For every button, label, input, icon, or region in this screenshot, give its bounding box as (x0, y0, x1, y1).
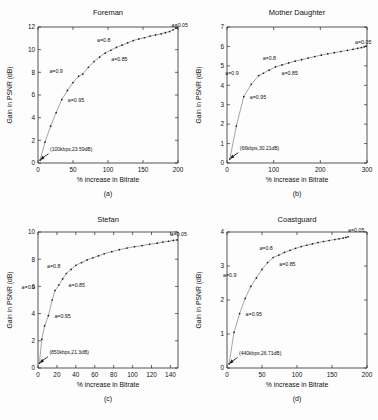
x-tick-label: 200 (362, 371, 373, 378)
data-point-marker (357, 48, 359, 50)
data-point-marker (338, 238, 340, 240)
data-curve (230, 46, 366, 159)
alpha-annotation-label: a=0.85 (282, 70, 298, 76)
chart-svg-coastguard: Coastguard05010015020001234(440kbps,26.7… (189, 210, 378, 420)
x-tick-label: 20 (53, 371, 61, 378)
data-point-marker (104, 52, 106, 54)
data-point-marker (103, 253, 105, 255)
data-point-marker (340, 51, 342, 53)
data-point-marker (50, 125, 52, 127)
data-point-marker (168, 240, 170, 242)
y-tick-label: 2 (220, 296, 224, 303)
data-point-marker (111, 251, 113, 253)
origin-annotation-label: (850kbps,21.3dB) (49, 349, 89, 355)
data-point-marker (156, 242, 158, 244)
data-point-marker (267, 262, 269, 264)
data-point-marker (110, 49, 112, 51)
x-tick-label: 150 (327, 371, 338, 378)
y-tick-label: 8 (31, 69, 35, 76)
data-point-marker (281, 64, 283, 66)
alpha-annotation-label: a=0.8 (47, 263, 60, 269)
y-tick-label: 6 (220, 43, 224, 50)
data-point-marker (155, 34, 157, 36)
chart-svg-foreman: Foreman050100150200024681012(100kbps,23.… (0, 0, 189, 210)
data-point-marker (307, 57, 309, 59)
data-curve (39, 240, 177, 363)
data-point-marker (138, 38, 140, 40)
origin-annotation-label: (440kbps,26.71dB) (239, 350, 282, 356)
x-tick-label: 100 (103, 166, 114, 173)
data-point-marker (317, 242, 319, 244)
data-point-marker (250, 286, 252, 288)
alpha-annotation-label: a=0.8 (259, 245, 272, 251)
data-point-marker (333, 52, 335, 54)
data-point-marker (127, 42, 129, 44)
data-point-marker (347, 49, 349, 51)
data-point-marker (134, 246, 136, 248)
data-point-marker (48, 315, 50, 317)
data-point-marker (98, 255, 100, 257)
panel-subcaption: (d) (293, 395, 302, 403)
chart-panel-mother-daughter: Mother Daughter010020030001234567(66kbps… (189, 0, 378, 210)
data-point-marker (55, 112, 57, 114)
origin-annotation-label: (100kbps,23.59dB) (50, 146, 93, 152)
chart-title: Coastguard (278, 215, 317, 224)
chart-title: Mother Daughter (269, 8, 326, 17)
x-tick-label: 120 (146, 371, 157, 378)
data-point-marker (288, 62, 290, 64)
data-point-marker (75, 264, 77, 266)
x-tick-label: 50 (258, 371, 266, 378)
x-axis-title: % increase in Bitrate (266, 176, 329, 183)
data-point-marker (306, 244, 308, 246)
x-tick-label: 150 (138, 166, 149, 173)
y-tick-label: 4 (31, 114, 35, 121)
alpha-annotation-label: a=0.05 (348, 227, 364, 233)
y-tick-label: 1 (220, 140, 224, 147)
alpha-annotation-label: a=0.05 (172, 22, 188, 28)
data-point-marker (44, 141, 46, 143)
alpha-annotation-label: a=0.95 (250, 94, 266, 100)
data-point-marker (86, 259, 88, 261)
x-tick-label: 100 (127, 371, 138, 378)
y-tick-label: 2 (220, 120, 224, 127)
data-point-marker (233, 331, 235, 333)
chart-svg-stefan: Stefan0204060801001201400246810(850kbps,… (0, 210, 189, 420)
y-tick-label: 5 (220, 62, 224, 69)
y-tick-label: 0 (220, 364, 224, 371)
data-point-marker (126, 247, 128, 249)
figure-container: Foreman050100150200024681012(100kbps,23.… (0, 0, 378, 420)
data-point-marker (320, 54, 322, 56)
data-point-marker (44, 325, 46, 327)
alpha-annotation-label: a=0.95 (68, 97, 84, 103)
panel-subcaption: (c) (104, 395, 112, 403)
data-point-marker (365, 45, 367, 47)
axis-frame (227, 27, 367, 163)
data-point-marker (172, 29, 174, 31)
data-point-marker (132, 40, 134, 42)
data-point-marker (323, 241, 325, 243)
data-point-marker (119, 249, 121, 251)
y-tick-label: 7 (220, 23, 224, 30)
data-point-marker (54, 290, 56, 292)
data-point-marker (121, 44, 123, 46)
y-tick-label: 8 (31, 256, 35, 263)
y-tick-label: 2 (31, 337, 35, 344)
chart-svg-mother-daughter: Mother Daughter010020030001234567(66kbps… (189, 0, 378, 210)
alpha-annotation-label: a=0.8 (263, 55, 276, 61)
data-point-marker (363, 46, 365, 48)
data-point-marker (256, 277, 258, 279)
data-point-marker (78, 75, 80, 77)
data-point-marker (334, 239, 336, 241)
data-point-marker (284, 252, 286, 254)
data-point-marker (235, 125, 237, 127)
alpha-annotation-label: a=0.85 (111, 56, 127, 62)
chart-panel-coastguard: Coastguard05010015020001234(440kbps,26.7… (189, 210, 378, 420)
data-point-marker (149, 243, 151, 245)
y-tick-label: 4 (220, 228, 224, 235)
data-point-marker (58, 284, 60, 286)
data-point-marker (250, 83, 252, 85)
data-point-marker (172, 240, 174, 242)
data-point-marker (66, 273, 68, 275)
x-axis-title: % increase in Bitrate (77, 176, 140, 183)
x-tick-label: 0 (36, 371, 40, 378)
